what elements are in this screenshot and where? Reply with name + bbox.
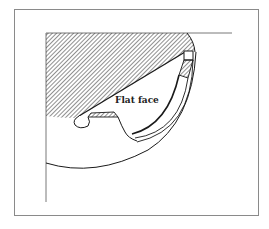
hatched-wedge (179, 60, 193, 78)
hatched-lip (88, 112, 118, 117)
groove-outer-line-1 (135, 78, 188, 138)
small-round-notch (74, 116, 89, 128)
hatched-section (46, 33, 195, 118)
cross-section-diagram: Flat face (0, 0, 269, 229)
seal-rectangle (184, 51, 193, 60)
flat-face-label: Flat face (115, 95, 159, 105)
pocket-curve (118, 117, 137, 141)
